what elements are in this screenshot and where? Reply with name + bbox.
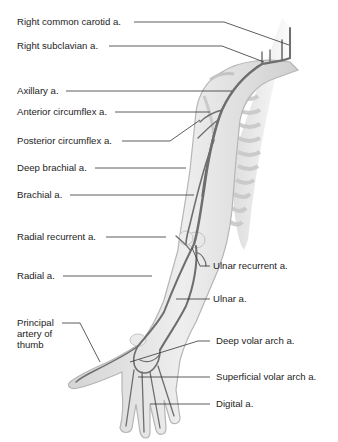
label-radial: Radial a.	[17, 270, 55, 281]
label-posterior-circumflex: Posterior circumflex a.	[17, 135, 112, 146]
label-axillary: Axillary a.	[17, 85, 59, 96]
label-ulnar-recurrent: Ulnar recurrent a.	[213, 260, 288, 271]
label-principal-artery-of-thumb: Principal artery of thumb	[17, 317, 54, 350]
label-brachial: Brachial a.	[17, 189, 62, 200]
label-right-common-carotid: Right common carotid a.	[17, 16, 121, 27]
label-deep-brachial: Deep brachial a.	[17, 162, 87, 173]
label-deep-volar-arch: Deep volar arch a.	[216, 335, 294, 346]
label-digital: Digital a.	[216, 398, 253, 409]
arm-arteries-diagram: Right common carotid a. Right subclavian…	[0, 0, 338, 442]
label-anterior-circumflex: Anterior circumflex a.	[17, 106, 107, 117]
label-superficial-volar-arch: Superficial volar arch a.	[216, 371, 316, 382]
label-radial-recurrent: Radial recurrent a.	[17, 231, 96, 242]
label-right-subclavian: Right subclavian a.	[17, 40, 98, 51]
label-ulnar: Ulnar a.	[213, 293, 247, 304]
